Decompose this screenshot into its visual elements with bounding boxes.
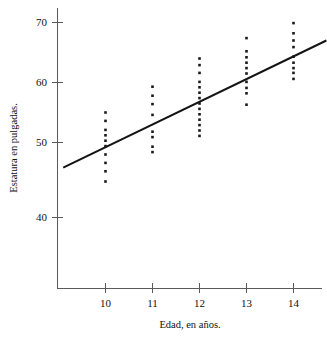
y-tick-label-40: 40 bbox=[36, 211, 48, 223]
data-point bbox=[245, 92, 248, 95]
data-point bbox=[292, 61, 295, 64]
y-axis-tick-labels: 70 60 50 40 bbox=[36, 16, 48, 223]
data-point bbox=[104, 120, 107, 123]
data-point bbox=[104, 111, 107, 114]
data-point bbox=[198, 81, 201, 84]
data-point bbox=[198, 108, 201, 111]
axes-group bbox=[58, 8, 323, 289]
data-point bbox=[104, 129, 107, 132]
chart-canvas: 70 60 50 40 10 11 12 13 14 Edad, en años… bbox=[0, 0, 327, 337]
data-point bbox=[104, 170, 107, 173]
x-axis-tick-labels: 10 11 12 13 14 bbox=[100, 297, 300, 309]
data-point bbox=[198, 118, 201, 121]
scatter-chart-figure: 70 60 50 40 10 11 12 13 14 Edad, en años… bbox=[0, 0, 327, 337]
data-point bbox=[151, 136, 154, 139]
data-point bbox=[198, 91, 201, 94]
data-point bbox=[151, 151, 154, 154]
data-point bbox=[151, 85, 154, 88]
data-point bbox=[245, 56, 248, 59]
data-point bbox=[198, 86, 201, 89]
data-point bbox=[292, 22, 295, 25]
data-point bbox=[151, 145, 154, 148]
data-point bbox=[292, 39, 295, 42]
data-point bbox=[245, 81, 248, 84]
y-tick-label-60: 60 bbox=[36, 76, 48, 88]
data-point bbox=[245, 37, 248, 40]
data-point bbox=[198, 97, 201, 100]
data-point bbox=[198, 64, 201, 67]
x-axis-title: Edad, en años. bbox=[159, 319, 220, 330]
data-point bbox=[151, 94, 154, 97]
data-point bbox=[198, 113, 201, 116]
data-point bbox=[151, 114, 154, 117]
y-tick-label-50: 50 bbox=[36, 136, 48, 148]
x-tick-label-13: 13 bbox=[241, 297, 253, 309]
x-tick-label-12: 12 bbox=[194, 297, 205, 309]
data-point bbox=[198, 124, 201, 127]
data-point bbox=[104, 134, 107, 137]
x-tick-label-10: 10 bbox=[100, 297, 112, 309]
data-point bbox=[245, 50, 248, 53]
data-point bbox=[292, 67, 295, 70]
data-point bbox=[245, 87, 248, 90]
y-tick-label-70: 70 bbox=[36, 16, 48, 28]
data-point bbox=[292, 32, 295, 35]
data-point bbox=[198, 135, 201, 138]
data-point bbox=[104, 162, 107, 165]
data-point bbox=[292, 78, 295, 81]
data-point bbox=[245, 103, 248, 106]
data-point bbox=[245, 72, 248, 75]
data-point bbox=[245, 67, 248, 70]
data-point bbox=[198, 129, 201, 132]
data-point bbox=[104, 139, 107, 142]
data-point bbox=[104, 153, 107, 156]
data-point bbox=[104, 180, 107, 183]
data-point bbox=[198, 57, 201, 60]
data-point bbox=[151, 103, 154, 106]
data-point bbox=[245, 61, 248, 64]
data-point bbox=[292, 46, 295, 49]
x-tick-label-14: 14 bbox=[288, 297, 300, 309]
data-point bbox=[292, 72, 295, 75]
regression-line bbox=[63, 41, 326, 168]
data-point bbox=[151, 130, 154, 133]
data-point bbox=[198, 72, 201, 75]
y-axis-title: Estatura en pulgadas. bbox=[8, 103, 19, 193]
x-tick-label-11: 11 bbox=[147, 297, 158, 309]
